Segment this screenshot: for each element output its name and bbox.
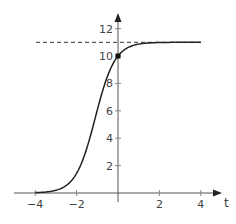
x-tick-label: 2 [156, 198, 163, 211]
x-axis-label: t [224, 196, 229, 210]
x-tick-label: 4 [197, 198, 204, 211]
chart-canvas: −4−22424681012t [0, 0, 236, 224]
y-tick-label: 12 [99, 23, 113, 36]
x-tick-label: −4 [27, 198, 43, 211]
y-tick-label: 8 [106, 77, 113, 90]
y-tick-label: 6 [106, 105, 113, 118]
initial-value-point [116, 54, 121, 59]
data-points [116, 54, 121, 59]
y-tick-label: 2 [106, 160, 113, 173]
x-axis-arrow-icon [213, 190, 222, 197]
y-tick-label: 10 [99, 50, 113, 63]
x-tick-label: −2 [68, 198, 84, 211]
y-tick-label: 4 [106, 132, 113, 145]
axes [14, 13, 222, 202]
y-axis-arrow-icon [115, 13, 122, 22]
tick-labels: −4−22424681012t [27, 23, 229, 211]
